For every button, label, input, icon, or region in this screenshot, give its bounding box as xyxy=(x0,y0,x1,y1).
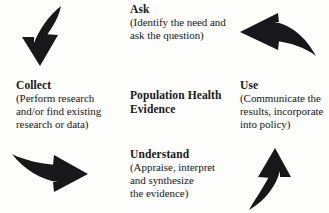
node-understand-desc-line-3: the evidence) xyxy=(130,187,215,200)
node-understand: Understand (Appraise, interpret and synt… xyxy=(130,148,215,200)
node-collect: Collect (Perform research and/or find ex… xyxy=(16,79,101,131)
node-understand-title: Understand xyxy=(130,148,215,161)
node-ask-title: Ask xyxy=(130,3,226,16)
node-ask-description: (Identify the need and ask the question) xyxy=(130,16,226,42)
node-use-desc-line-1: (Communicate the xyxy=(240,92,323,105)
node-use-description: (Communicate the results, incorporate in… xyxy=(240,92,323,131)
node-use: Use (Communicate the results, incorporat… xyxy=(240,79,323,131)
node-use-desc-line-3: into policy) xyxy=(240,118,323,131)
node-ask-desc-line-2: ask the question) xyxy=(130,29,226,42)
curved-arrow-up-icon xyxy=(243,146,297,212)
node-use-desc-line-2: results, incorporate xyxy=(240,105,323,118)
center-label-line-1: Population Health xyxy=(130,88,221,102)
population-health-evidence-diagram: Ask (Identify the need and ask the quest… xyxy=(0,0,329,213)
node-use-title: Use xyxy=(240,79,323,92)
curved-arrow-down-icon xyxy=(14,4,76,70)
curved-arrow-left-icon xyxy=(234,12,318,60)
curved-arrow-right-icon xyxy=(10,146,90,202)
node-collect-desc-line-1: (Perform research xyxy=(16,92,101,105)
node-collect-title: Collect xyxy=(16,79,101,92)
node-collect-desc-line-3: research or data) xyxy=(16,118,101,131)
node-understand-description: (Appraise, interpret and synthesize the … xyxy=(130,161,215,200)
node-collect-description: (Perform research and/or find existing r… xyxy=(16,92,101,131)
center-label-population-health-evidence: Population Health Evidence xyxy=(130,88,221,116)
center-label-line-2: Evidence xyxy=(130,102,221,116)
node-understand-desc-line-1: (Appraise, interpret xyxy=(130,161,215,174)
node-ask-desc-line-1: (Identify the need and xyxy=(130,16,226,29)
node-ask: Ask (Identify the need and ask the quest… xyxy=(130,3,226,42)
node-understand-desc-line-2: and synthesize xyxy=(130,174,215,187)
node-collect-desc-line-2: and/or find existing xyxy=(16,105,101,118)
